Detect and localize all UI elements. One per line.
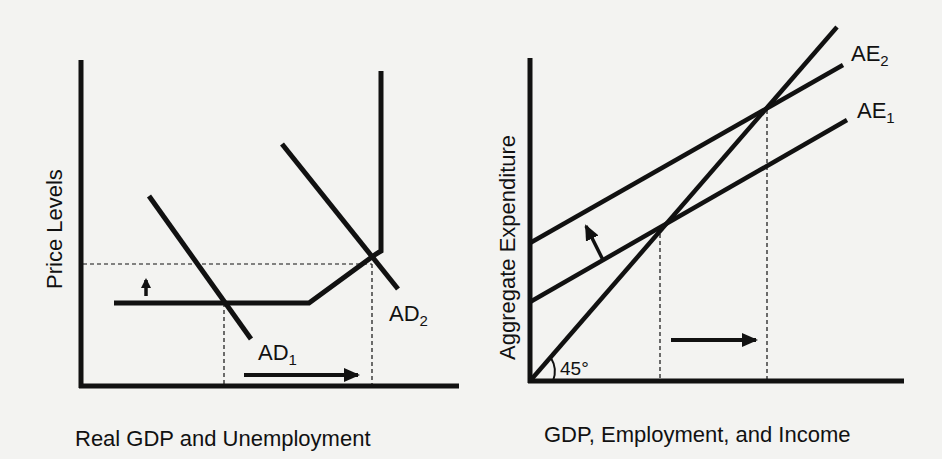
angle-label: 45°: [560, 358, 589, 379]
forty-five-degree-line: [530, 27, 837, 381]
ad2-label: AD2: [389, 301, 428, 329]
ae1-curve: [530, 120, 847, 302]
ad1-label: AD1: [258, 340, 297, 368]
diagram-canvas: AD1 AD2 Price Levels Real GDP and Unempl…: [0, 0, 942, 459]
aggregate-supply-curve: [114, 71, 381, 303]
right-panel-keynesian-cross: 45° AE2 AE1 Aggregate Expenditure GDP, E…: [495, 27, 904, 447]
left-y-axis-label: Price Levels: [42, 169, 67, 289]
ae2-label: AE2: [851, 41, 889, 69]
ae1-label: AE1: [857, 98, 895, 126]
left-panel-ad-as-chart: AD1 AD2 Price Levels Real GDP and Unempl…: [42, 60, 459, 451]
ae2-curve: [530, 65, 843, 243]
right-x-axis-label: GDP, Employment, and Income: [544, 422, 851, 447]
ae-shift-up-arrow: [586, 226, 603, 260]
left-x-axis-label: Real GDP and Unemployment: [75, 426, 371, 451]
angle-arc-icon: [551, 358, 555, 381]
right-y-axis-label: Aggregate Expenditure: [495, 135, 520, 360]
ad1-curve: [149, 196, 251, 339]
